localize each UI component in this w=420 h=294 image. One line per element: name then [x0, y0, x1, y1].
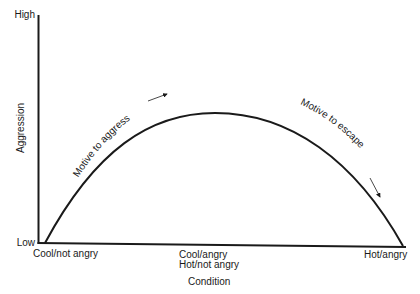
- y-tick-high: High: [14, 9, 35, 20]
- x-tick-cool-not-angry: Cool/not angry: [33, 248, 98, 259]
- arrow-escape-icon: [370, 178, 380, 197]
- annotation-motive-to-escape: Motive to escape: [299, 96, 367, 150]
- x-tick-hot-not-angry: Hot/not angry: [179, 259, 239, 270]
- x-axis: [38, 243, 407, 247]
- x-tick-hot-angry: Hot/angry: [364, 249, 407, 260]
- y-axis-label: Aggression: [15, 103, 26, 153]
- x-axis-label: Condition: [188, 276, 230, 287]
- inverted-u-diagram: High Low Aggression Cool/not angry Cool/…: [0, 0, 420, 294]
- arrow-aggress-icon: [148, 94, 167, 101]
- y-tick-low: Low: [17, 237, 36, 248]
